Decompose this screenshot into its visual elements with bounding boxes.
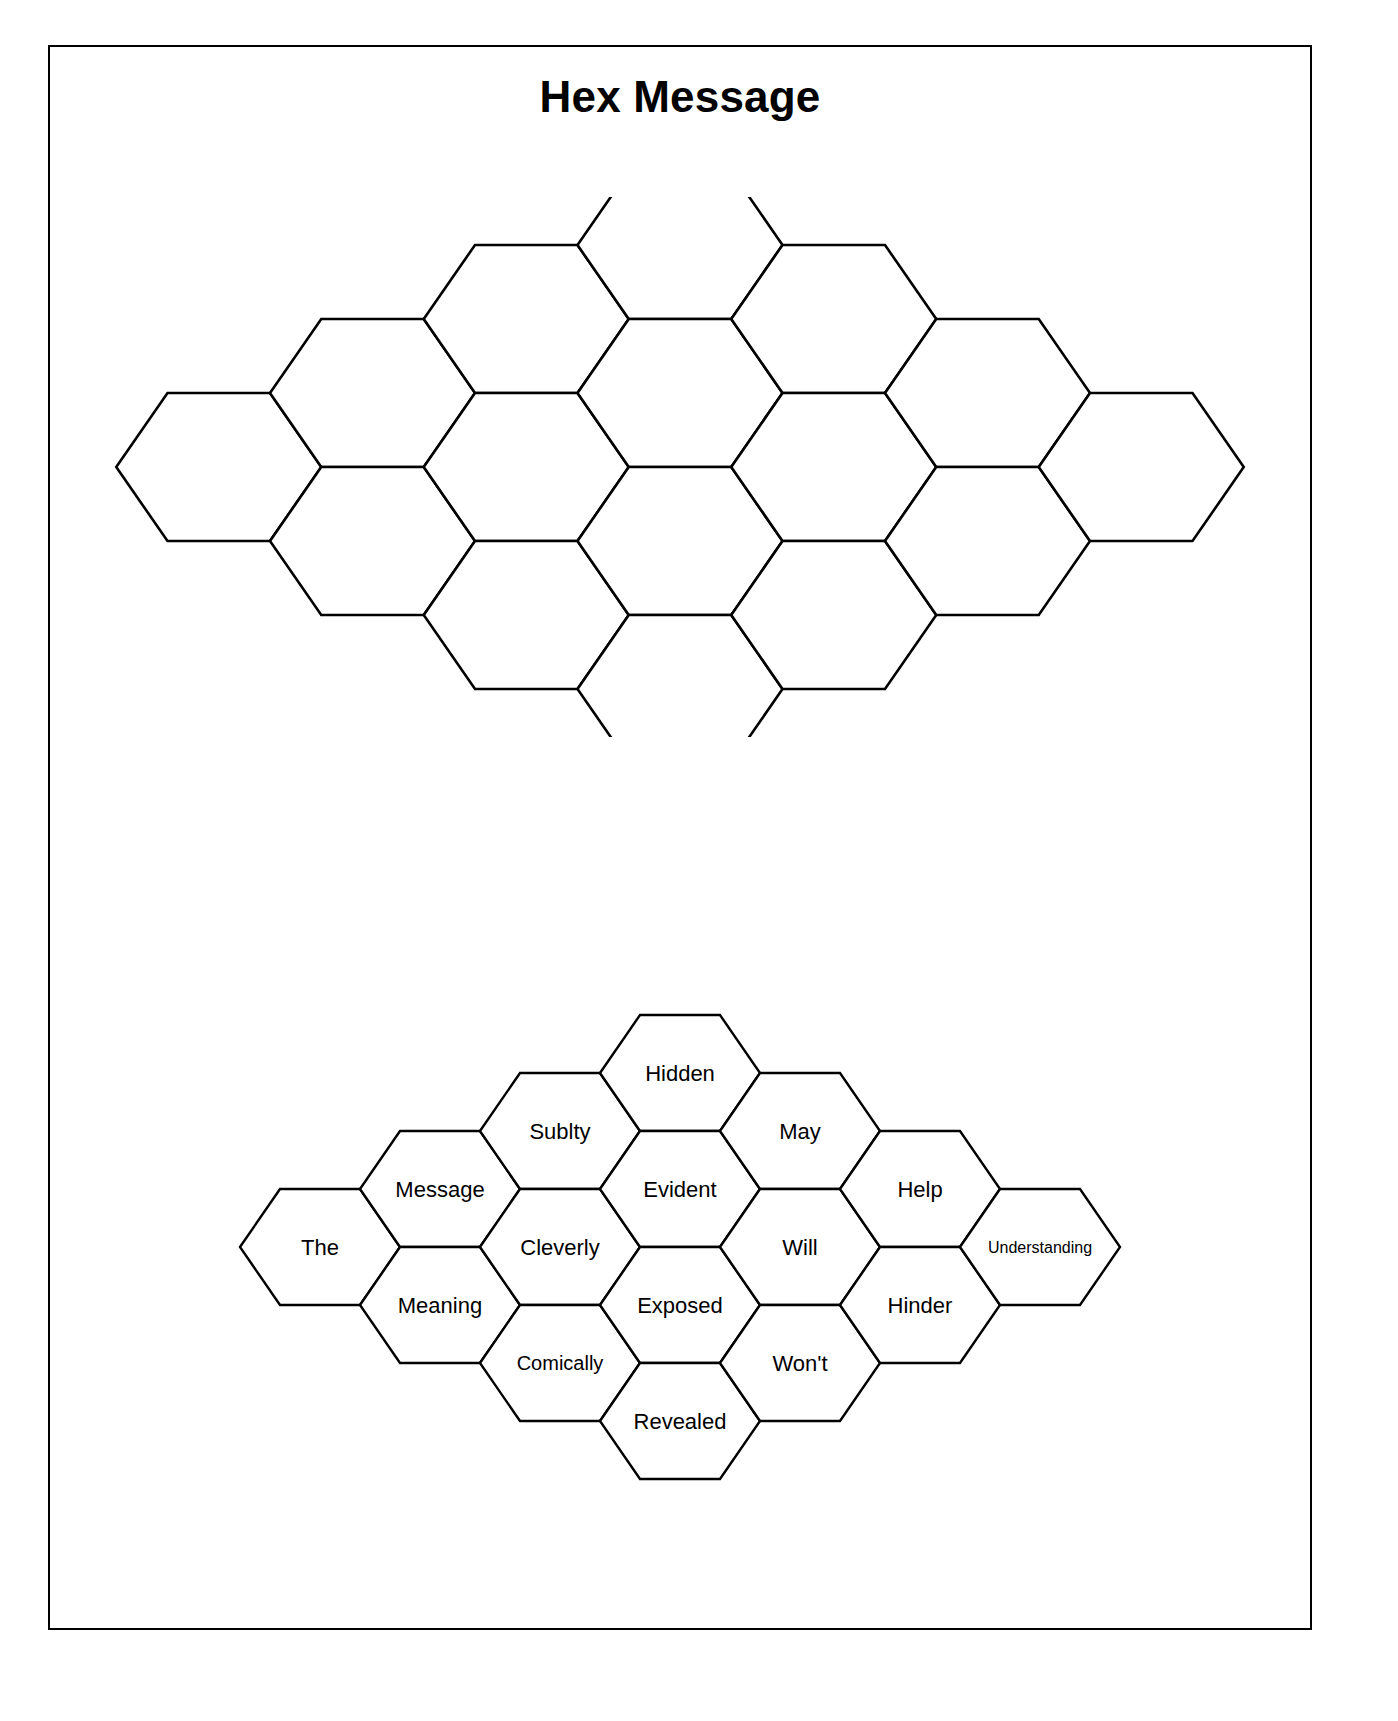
hex-label-understanding: Understanding: [988, 1239, 1092, 1256]
hex-label-hinder: Hinder: [888, 1293, 953, 1318]
hex-label-cleverly: Cleverly: [520, 1235, 599, 1260]
hex-label-help: Help: [897, 1177, 942, 1202]
answer-hex-grid-container: TheMessageMeaningSubltyCleverlyComically…: [50, 967, 1310, 1527]
answer-hex-grid: TheMessageMeaningSubltyCleverlyComically…: [230, 967, 1130, 1527]
blank-hex-grid-container: [50, 197, 1310, 737]
hex-label-sublty: Sublty: [529, 1119, 590, 1144]
hex-label-comically: Comically: [517, 1352, 604, 1374]
blank-hex-grid: [100, 197, 1260, 737]
hex-label-message: Message: [395, 1177, 484, 1202]
hex-label-exposed: Exposed: [637, 1293, 723, 1318]
hex-label-hidden: Hidden: [645, 1061, 715, 1086]
hex-label-will: Will: [782, 1235, 817, 1260]
page-title: Hex Message: [50, 72, 1310, 122]
hex-label-evident: Evident: [643, 1177, 716, 1202]
hex-label-won-t: Won't: [772, 1351, 827, 1376]
worksheet-frame: Hex Message TheMessageMeaningSubltyCleve…: [48, 45, 1312, 1630]
hex-label-the: The: [301, 1235, 339, 1260]
hex-label-meaning: Meaning: [398, 1293, 482, 1318]
hex-label-may: May: [779, 1119, 821, 1144]
hex-label-revealed: Revealed: [634, 1409, 727, 1434]
